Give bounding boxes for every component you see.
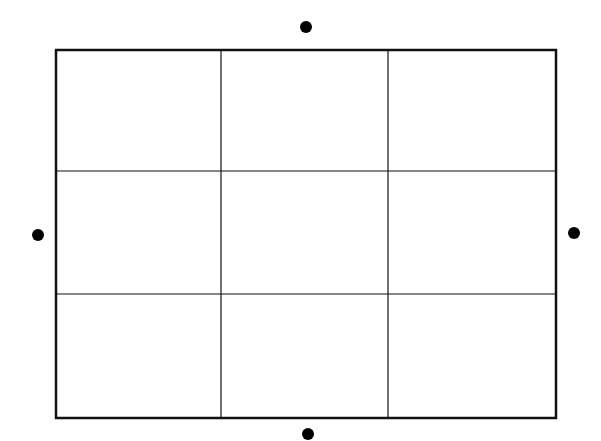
point-bottom-icon — [302, 428, 314, 440]
point-top-icon — [300, 21, 312, 33]
grid-inner-lines — [56, 50, 556, 418]
external-points — [32, 21, 580, 440]
point-left-icon — [32, 229, 44, 241]
grid-diagram — [0, 0, 601, 441]
point-right-icon — [568, 227, 580, 239]
grid-outer-border — [56, 50, 556, 418]
